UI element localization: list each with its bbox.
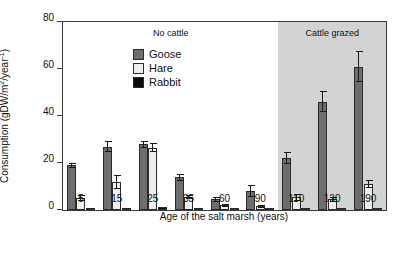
- y-axis-title-sup-year: -1: [0, 52, 5, 58]
- error-bar-goose-90: [250, 185, 251, 197]
- error-bar-goose-15: [107, 141, 108, 153]
- legend-item-hare: Hare: [133, 61, 181, 75]
- bar-rabbit-15: [122, 208, 131, 210]
- x-tick-label-130: 130: [324, 193, 341, 204]
- y-tick-20: [57, 162, 63, 163]
- y-axis-title-sup-area: 2: [0, 81, 5, 85]
- y-axis-title-post: ): [0, 49, 10, 52]
- error-bar-goose-190: [358, 51, 359, 82]
- bar-rabbit-35: [194, 208, 203, 210]
- legend-swatch-goose: [133, 49, 144, 60]
- x-tick-label-15: 15: [111, 193, 122, 204]
- y-tick-60: [57, 68, 63, 69]
- x-tick-label-90: 90: [255, 193, 266, 204]
- bar-goose-5: [67, 165, 76, 210]
- y-tick-label-0: 0: [48, 200, 54, 211]
- legend-swatch-rabbit: [133, 77, 144, 88]
- x-tick-label-190: 190: [360, 193, 377, 204]
- bar-rabbit-90: [265, 208, 274, 210]
- plot-area: 020406080 No cattleCattle grazed Goose H…: [62, 21, 387, 211]
- bar-rabbit-5: [86, 208, 95, 210]
- error-bar-goose-60: [215, 197, 216, 203]
- x-tick-label-5: 5: [78, 193, 84, 204]
- legend-swatch-hare: [133, 63, 144, 74]
- error-bar-hare-15: [116, 175, 117, 189]
- error-bar-goose-25: [143, 141, 144, 148]
- bar-rabbit-130: [337, 208, 346, 210]
- legend-item-rabbit: Rabbit: [133, 75, 181, 89]
- bar-rabbit-25: [158, 207, 167, 210]
- y-tick-label-80: 80: [43, 12, 54, 23]
- y-tick-80: [57, 21, 63, 22]
- y-tick-0: [57, 209, 63, 210]
- y-tick-label-40: 40: [43, 106, 54, 117]
- legend-label-goose: Goose: [149, 48, 181, 60]
- error-bar-hare-25: [152, 143, 153, 152]
- legend-label-hare: Hare: [149, 62, 173, 74]
- x-tick-label-60: 60: [219, 193, 230, 204]
- bar-goose-190: [354, 67, 363, 210]
- legend-label-rabbit: Rabbit: [149, 76, 181, 88]
- error-bar-hare-90: [260, 205, 261, 208]
- cattle-grazed-shaded-region: [278, 22, 386, 210]
- x-tick-label-35: 35: [183, 193, 194, 204]
- annotation-no-cattle: No cattle: [153, 28, 189, 38]
- error-bar-goose-5: [71, 163, 72, 169]
- bar-rabbit-110: [301, 208, 310, 210]
- y-tick-40: [57, 115, 63, 116]
- x-axis-title: Age of the salt marsh (years): [160, 211, 288, 222]
- error-bar-hare-190: [368, 180, 369, 188]
- y-axis-title-pre: Consumption (gDW/m: [0, 85, 10, 183]
- error-bar-hare-60: [224, 204, 225, 207]
- error-bar-goose-130: [322, 91, 323, 112]
- error-bar-goose-35: [179, 174, 180, 181]
- bar-rabbit-60: [230, 208, 239, 210]
- annotation-cattle-grazed: Cattle grazed: [305, 28, 359, 38]
- x-tick-label-110: 110: [288, 193, 304, 204]
- bar-rabbit-190: [373, 208, 382, 210]
- error-bar-goose-110: [286, 152, 287, 164]
- figure-container: Consumption (gDW/m2/year-1) 020406080 No…: [0, 0, 412, 263]
- y-tick-label-60: 60: [43, 59, 54, 70]
- legend-item-goose: Goose: [133, 47, 181, 61]
- y-axis-title: Consumption (gDW/m2/year-1): [0, 49, 10, 183]
- y-axis-title-mid: /year: [0, 59, 10, 81]
- y-tick-label-20: 20: [43, 153, 54, 164]
- x-tick-label-25: 25: [147, 193, 158, 204]
- legend: Goose Hare Rabbit: [133, 47, 181, 89]
